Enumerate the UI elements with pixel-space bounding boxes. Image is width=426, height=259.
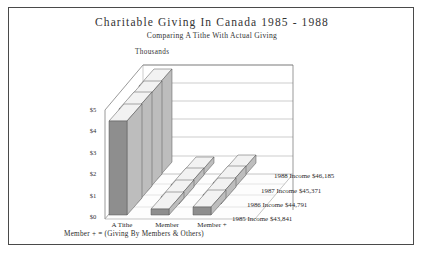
- annotation-1987: 1987 Income $45,371: [261, 187, 322, 194]
- chart-canvas: $5 $4 $3 $2 $1 $0: [9, 8, 415, 246]
- annotation-1988: 1988 Income $46,185: [274, 172, 335, 179]
- chart-frame: Charitable Giving In Canada 1985 - 1988 …: [8, 7, 414, 245]
- annotation-1985: 1985 Income $43,841: [232, 215, 293, 222]
- y-tick-0: $0: [90, 213, 97, 220]
- y-tick-4: $4: [90, 127, 97, 134]
- x-tick-a-tithe: A Tithe: [112, 221, 133, 229]
- y-tick-2: $2: [90, 170, 97, 177]
- x-axis-category-labels: A Tithe Member Member +: [112, 221, 227, 229]
- y-tick-3: $3: [90, 149, 97, 156]
- y-tick-5: $5: [90, 106, 97, 113]
- chart-stage: Charitable Giving In Canada 1985 - 1988 …: [9, 8, 415, 246]
- x-tick-member: Member: [155, 221, 179, 229]
- bar-1985-a-tithe: [109, 104, 142, 215]
- x-tick-member-plus: Member +: [197, 221, 226, 229]
- chart-footnote: Member + = (Giving By Members & Others): [64, 230, 204, 238]
- y-tick-1: $1: [90, 192, 97, 199]
- annotation-1986: 1986 Income $44,791: [247, 201, 308, 208]
